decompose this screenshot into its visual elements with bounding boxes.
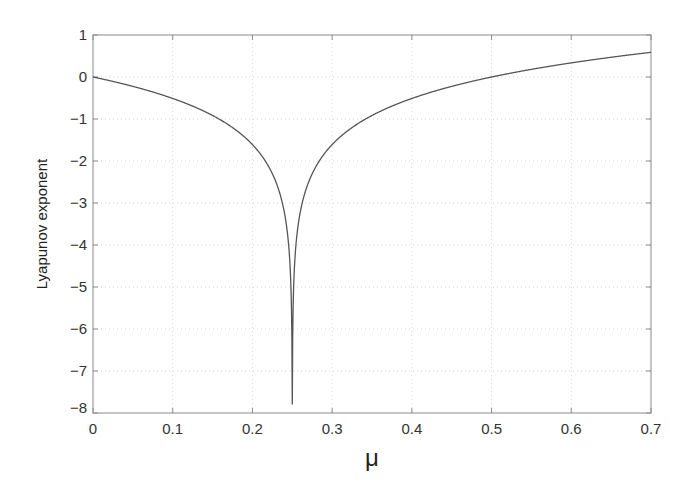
y-tick-label: −4 xyxy=(70,236,87,253)
y-tick-label: −1 xyxy=(70,110,87,127)
axis-ticks xyxy=(93,35,651,413)
y-tick-label: −5 xyxy=(70,278,87,295)
y-tick-labels: 10−1−2−3−4−5−6−7−8 xyxy=(70,26,87,416)
data-line xyxy=(93,52,651,404)
grid-lines xyxy=(93,35,651,413)
y-tick-label: −3 xyxy=(70,194,87,211)
x-tick-label: 0.5 xyxy=(481,420,502,437)
x-tick-label: 0.3 xyxy=(322,420,343,437)
y-tick-label: −6 xyxy=(70,320,87,337)
y-tick-label: −8 xyxy=(70,399,87,416)
x-tick-label: 0 xyxy=(89,420,97,437)
x-axis-label: μ xyxy=(365,444,379,471)
y-axis-label: Lyapunov exponent xyxy=(33,158,50,289)
y-tick-label: −2 xyxy=(70,152,87,169)
y-tick-label: −7 xyxy=(70,362,87,379)
x-tick-labels: 00.10.20.30.40.50.60.7 xyxy=(89,420,662,437)
x-tick-label: 0.1 xyxy=(162,420,183,437)
x-tick-label: 0.4 xyxy=(401,420,422,437)
x-tick-label: 0.6 xyxy=(561,420,582,437)
x-tick-label: 0.7 xyxy=(641,420,662,437)
x-tick-label: 0.2 xyxy=(242,420,263,437)
plot-area-frame xyxy=(93,35,651,413)
lyapunov-chart: 00.10.20.30.40.50.60.7 10−1−2−3−4−5−6−7−… xyxy=(0,0,698,484)
y-tick-label: 0 xyxy=(79,68,87,85)
y-tick-label: 1 xyxy=(79,26,87,43)
